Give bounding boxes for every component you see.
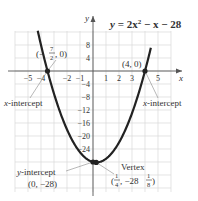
x-axis-label: x <box>178 73 183 83</box>
x-tick-label: 2 <box>117 74 121 83</box>
y-tick-label: −4 <box>81 80 90 89</box>
svg-text:1: 1 <box>115 172 118 179</box>
y-tick-label: −12 <box>77 106 90 115</box>
svg-text:7: 7 <box>50 45 54 52</box>
vertex-point <box>94 160 99 165</box>
x-tick-label: 1 <box>104 74 108 83</box>
vertex-coords: ( 1 4 , −28 1 8 ) <box>111 172 155 188</box>
y-intercept-label: y-intercept <box>16 167 56 177</box>
x-tick-label: −2 <box>63 74 72 83</box>
svg-text:(−: (− <box>36 49 44 59</box>
parabola-chart: −5−4−2−1123584−4−8−12−16−20−24 y = 2x2 −… <box>0 0 198 201</box>
svg-text:, 0): , 0) <box>55 49 67 59</box>
svg-text:8: 8 <box>147 181 150 188</box>
chart-title: y = 2x2 − x − 28 <box>108 18 182 30</box>
svg-text:4: 4 <box>115 181 119 188</box>
svg-text:2: 2 <box>50 54 53 61</box>
x-intercept-right-label: x-intercept <box>142 98 182 108</box>
right-intercept-coords: (4, 0) <box>122 59 142 69</box>
y-intercept-coords: (0, −28) <box>28 179 57 189</box>
y-tick-label: −8 <box>81 93 90 102</box>
y-tick-label: 8 <box>86 41 90 50</box>
x-intercept-left-point <box>45 68 50 73</box>
x-tick-label: −4 <box>37 74 46 83</box>
x-tick-label: 3 <box>130 74 134 83</box>
y-axis-label: y <box>84 13 89 23</box>
svg-text:, −28: , −28 <box>120 176 139 186</box>
x-intercept-right-point <box>142 68 147 73</box>
vertex-label: Vertex <box>121 162 145 172</box>
y-tick-label: −20 <box>77 132 90 141</box>
x-intercept-left-label: x-intercept <box>3 98 43 108</box>
y-tick-label: −16 <box>77 119 90 128</box>
svg-text:(: ( <box>111 176 114 186</box>
x-tick-label: 5 <box>156 74 160 83</box>
x-tick-label: −5 <box>24 74 33 83</box>
svg-text:): ) <box>152 176 155 186</box>
y-tick-label: 4 <box>86 54 90 63</box>
svg-text:1: 1 <box>147 172 150 179</box>
